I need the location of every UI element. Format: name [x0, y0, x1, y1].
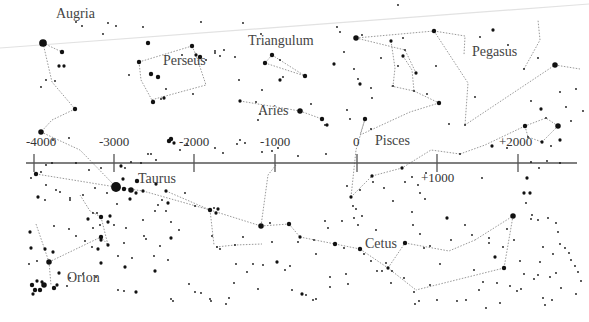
- star: [284, 269, 286, 271]
- star: [349, 118, 351, 120]
- star: [343, 247, 345, 249]
- constellation-label-triangulum: Triangulum: [248, 34, 314, 48]
- star: [169, 137, 173, 141]
- star: [575, 88, 577, 90]
- star: [116, 203, 118, 205]
- axis-tick-label: -1000: [260, 135, 290, 148]
- star: [436, 299, 438, 301]
- star: [510, 213, 516, 219]
- star: [482, 281, 484, 283]
- star: [31, 292, 34, 295]
- star: [287, 222, 291, 226]
- star: [471, 234, 473, 236]
- star: [346, 185, 348, 187]
- star: [282, 76, 284, 78]
- constellation-line: [360, 249, 388, 268]
- star: [404, 49, 406, 51]
- star: [54, 80, 56, 82]
- star: [343, 51, 345, 53]
- star: [39, 39, 47, 47]
- star: [131, 257, 133, 259]
- star: [370, 87, 372, 89]
- star: [75, 162, 77, 164]
- star: [522, 191, 525, 194]
- star: [178, 229, 180, 231]
- star: [145, 238, 147, 240]
- constellation-line: [289, 224, 300, 237]
- star: [190, 44, 194, 48]
- star: [391, 270, 393, 272]
- star: [154, 210, 156, 212]
- star: [45, 184, 47, 186]
- star: [513, 239, 515, 241]
- star: [372, 181, 374, 183]
- star: [357, 78, 359, 80]
- star: [397, 65, 399, 67]
- star: [208, 208, 212, 212]
- star: [533, 278, 535, 280]
- star: [239, 139, 241, 141]
- star: [502, 246, 504, 248]
- constellation-line: [300, 111, 322, 119]
- star: [184, 192, 186, 194]
- star: [313, 239, 315, 241]
- star: [279, 59, 281, 61]
- star: [359, 189, 361, 191]
- star: [162, 96, 165, 99]
- star: [169, 236, 172, 239]
- star: [211, 235, 213, 237]
- star: [246, 271, 248, 273]
- star: [479, 36, 481, 38]
- star: [570, 120, 572, 122]
- star: [404, 181, 406, 183]
- star: [153, 255, 155, 257]
- star: [370, 260, 372, 262]
- star: [216, 246, 218, 248]
- star: [219, 55, 221, 57]
- axis-tick-label: +2000: [499, 135, 532, 148]
- constellation-label-aries: Aries: [258, 104, 288, 118]
- constellation-line: [360, 103, 439, 135]
- star: [30, 177, 32, 179]
- star: [107, 22, 109, 24]
- star: [134, 191, 137, 194]
- star: [52, 286, 56, 290]
- star: [413, 90, 415, 92]
- star: [44, 199, 46, 201]
- star: [238, 99, 241, 102]
- constellation-line: [504, 216, 513, 268]
- star: [411, 211, 413, 213]
- star: [568, 252, 570, 254]
- star: [123, 242, 125, 244]
- star: [570, 259, 572, 261]
- star: [82, 194, 84, 196]
- star: [124, 167, 126, 169]
- star: [363, 253, 365, 255]
- constellation-line: [216, 244, 262, 247]
- constellation-line: [542, 126, 558, 142]
- star: [60, 50, 64, 54]
- star: [542, 246, 544, 248]
- star: [106, 243, 109, 246]
- constellation-lines: [36, 20, 580, 290]
- star: [289, 265, 291, 267]
- star: [252, 263, 254, 265]
- star: [33, 288, 37, 292]
- star: [544, 304, 546, 306]
- star: [200, 21, 202, 23]
- star: [68, 228, 70, 230]
- constellation-line: [36, 224, 49, 262]
- star: [238, 79, 240, 81]
- star: [117, 289, 119, 291]
- star: [530, 161, 532, 163]
- star: [128, 187, 134, 193]
- star: [392, 200, 394, 202]
- star: [91, 246, 93, 248]
- star: [429, 284, 431, 286]
- star: [546, 160, 548, 162]
- star: [219, 248, 221, 250]
- star: [192, 93, 194, 95]
- star: [464, 124, 466, 126]
- constellation-line: [80, 195, 101, 217]
- star: [36, 195, 39, 198]
